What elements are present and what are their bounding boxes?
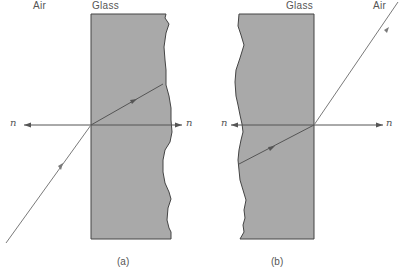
refracted-ray-b bbox=[314, 2, 398, 125]
medium-label-air-b: Air bbox=[373, 0, 386, 11]
medium-label-glass-a: Glass bbox=[92, 0, 119, 11]
incident-ray-a bbox=[6, 125, 91, 243]
glass-slab-a bbox=[91, 14, 172, 239]
normal-label-left-b: n bbox=[221, 117, 227, 128]
glass-slab-b bbox=[235, 14, 314, 239]
normal-label-right-b: n bbox=[386, 117, 392, 128]
caption-a: (a) bbox=[117, 256, 129, 267]
refraction-diagram bbox=[0, 0, 401, 274]
medium-label-air-a: Air bbox=[33, 0, 46, 11]
normal-label-right-a: n bbox=[186, 117, 192, 128]
caption-b: (b) bbox=[271, 256, 283, 267]
medium-label-glass-b: Glass bbox=[286, 0, 313, 11]
normal-label-left-a: n bbox=[10, 117, 16, 128]
ray-arrow-icon bbox=[384, 27, 389, 33]
